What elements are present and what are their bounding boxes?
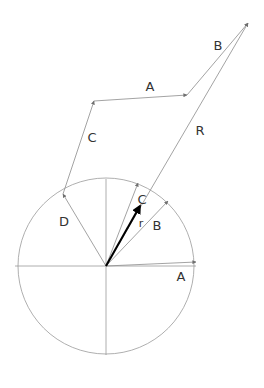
label-vector-a-inner: A [177, 269, 186, 284]
vector-b-outer-line [187, 23, 248, 95]
vector-c-outer-line [63, 101, 94, 194]
label-vector-b-outer: B [214, 38, 223, 53]
label-vector-d-inner: D [59, 214, 69, 229]
label-vector-c-inner: C [137, 192, 146, 207]
vector-diagram-svg: A B C D r C A B R [0, 0, 264, 388]
label-vector-b-inner: B [153, 218, 162, 233]
vector-d-inner-line [63, 194, 106, 266]
vector-diagram-canvas: A B C D r C A B R [0, 0, 264, 388]
label-vector-a-outer: A [146, 79, 155, 94]
label-vector-c-outer: C [87, 130, 96, 145]
vector-a-outer-line [94, 95, 187, 101]
label-vector-R-total: R [195, 123, 204, 138]
vector-a-inner-line [106, 262, 196, 266]
label-vector-r-resultant: r [139, 217, 144, 230]
vector-c-inner-line [106, 183, 138, 266]
